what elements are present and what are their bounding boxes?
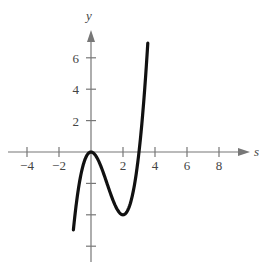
y-axis-label: y: [84, 8, 92, 23]
x-tick-label: −2: [52, 158, 66, 173]
chart: s −4−22468 y 246: [0, 0, 262, 265]
x-axis-arrow-icon: [238, 148, 250, 156]
x-ticks: −4−22468: [20, 147, 222, 173]
y-tick-label: 6: [73, 51, 80, 66]
y-tick-label: 4: [73, 82, 80, 97]
x-axis-label: s: [254, 144, 259, 159]
x-tick-label: −4: [20, 158, 34, 173]
x-tick-label: 6: [184, 158, 191, 173]
y-axis: y: [84, 8, 95, 262]
x-tick-label: 4: [152, 158, 159, 173]
y-axis-arrow-icon: [87, 30, 95, 42]
x-tick-label: 8: [216, 158, 223, 173]
function-curve: [73, 43, 147, 230]
y-tick-label: 2: [73, 114, 80, 129]
x-axis: s: [8, 144, 259, 159]
x-tick-label: 2: [120, 158, 127, 173]
